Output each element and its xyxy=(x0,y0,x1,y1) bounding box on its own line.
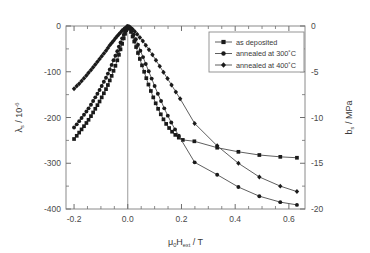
x-axis-tick-labels: -0.20.00.20.40.6 xyxy=(67,214,295,224)
svg-text:μ0Hext / T: μ0Hext / T xyxy=(168,237,204,248)
svg-text:bs / MPa: bs / MPa xyxy=(344,101,355,135)
svg-text:0: 0 xyxy=(56,21,61,31)
svg-text:annealed at 400˚C: annealed at 400˚C xyxy=(236,61,296,70)
svg-text:-20: -20 xyxy=(311,204,324,214)
svg-text:0.6: 0.6 xyxy=(283,214,295,224)
svg-text:-200: -200 xyxy=(44,113,61,123)
svg-text:0: 0 xyxy=(311,21,316,31)
y-axis-left-ticks xyxy=(66,26,71,209)
svg-text:-15: -15 xyxy=(311,158,324,168)
svg-text:-10: -10 xyxy=(311,113,324,123)
magnetostriction-chart-figure: -0.20.00.20.40.6 0-100-200-300-400 0-5-1… xyxy=(0,0,370,253)
svg-text:-100: -100 xyxy=(44,67,61,77)
chart-canvas: -0.20.00.20.40.6 0-100-200-300-400 0-5-1… xyxy=(0,0,370,253)
svg-text:-300: -300 xyxy=(44,158,61,168)
y-axis-right-tick-labels: 0-5-10-15-20 xyxy=(311,21,324,214)
svg-text:as deposited: as deposited xyxy=(236,38,277,47)
y-axis-right-label: bs / MPa xyxy=(344,101,355,135)
svg-text:-5: -5 xyxy=(311,67,319,77)
svg-text:annealed at 300˚C: annealed at 300˚C xyxy=(236,49,296,58)
x-axis-label: μ0Hext / T xyxy=(168,237,204,248)
svg-text:-400: -400 xyxy=(44,204,61,214)
svg-text:0.2: 0.2 xyxy=(176,214,188,224)
svg-text:-0.2: -0.2 xyxy=(67,214,82,224)
y-axis-left-tick-labels: 0-100-200-300-400 xyxy=(44,21,61,214)
svg-text:0.4: 0.4 xyxy=(229,214,241,224)
svg-text:λs / 10-6: λs / 10-6 xyxy=(14,103,26,133)
legend: as depositedannealed at 300˚Cannealed at… xyxy=(209,32,304,72)
y-axis-left-label: λs / 10-6 xyxy=(14,103,26,133)
svg-text:0.0: 0.0 xyxy=(122,214,134,224)
